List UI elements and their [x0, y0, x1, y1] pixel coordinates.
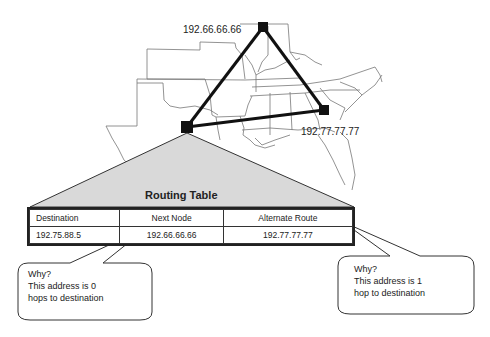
cell-destination: 192.75.88.5 [30, 227, 120, 244]
callout-left-line2: This address is 0 [28, 280, 104, 292]
link-source-north [187, 27, 263, 127]
routing-table: Destination Next Node Alternate Route 19… [27, 207, 355, 246]
callout-left-line1: Why? [28, 268, 104, 280]
node-label-east: 192.77.77.77 [301, 126, 359, 137]
callout-right-line1: Why? [354, 263, 425, 275]
router-node-north [258, 22, 268, 32]
table-header-row: Destination Next Node Alternate Route [30, 210, 353, 227]
callout-right-text: Why? This address is 1 hop to destinatio… [354, 263, 425, 299]
cell-next-node: 192.66.66.66 [120, 227, 223, 244]
header-alternate-route: Alternate Route [223, 210, 352, 227]
table-row: 192.75.88.5 192.66.66.66 192.77.77.77 [30, 227, 353, 244]
callout-left-line3: hops to destination [28, 292, 104, 304]
routing-table-title: Routing Table [145, 189, 218, 201]
header-destination: Destination [30, 210, 120, 227]
callout-right-line2: This address is 1 [354, 275, 425, 287]
header-next-node: Next Node [120, 210, 223, 227]
node-label-north: 192.66.66.66 [183, 24, 241, 35]
cell-alternate-route: 192.77.77.77 [223, 227, 352, 244]
callout-left-text: Why? This address is 0 hops to destinati… [28, 268, 104, 304]
link-source-east [187, 110, 324, 127]
router-node-east [319, 105, 329, 115]
callout-right-line3: hop to destination [354, 287, 425, 299]
router-node-source [181, 121, 193, 133]
